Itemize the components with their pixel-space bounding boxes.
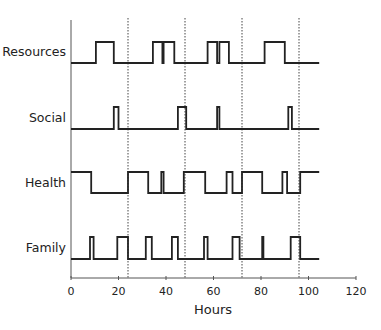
x-tick-label: 80 [254,285,268,298]
series-family [71,237,319,259]
row-label-family: Family [26,240,67,255]
row-label-resources: Resources [2,44,66,59]
series-social [71,107,319,129]
series-resources [71,42,319,63]
x-tick-label: 60 [207,285,221,298]
x-tick-label: 20 [112,285,126,298]
series-health [71,172,319,193]
x-axis-title: Hours [194,302,232,317]
x-tick-label: 120 [346,285,367,298]
x-tick-label: 0 [68,285,75,298]
step-chart: Resources Social Health Family 0 20 40 6… [0,0,381,330]
row-label-health: Health [25,175,66,190]
series-lines [71,42,319,259]
x-tick-label: 40 [159,285,173,298]
row-label-social: Social [29,110,66,125]
x-tick-label: 100 [298,285,319,298]
